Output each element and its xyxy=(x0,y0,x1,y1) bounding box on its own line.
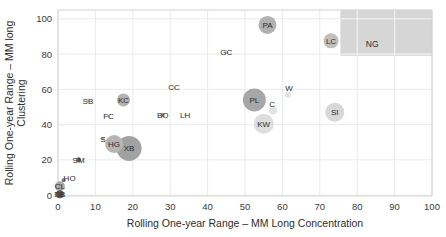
shaded-region: NG xyxy=(340,10,432,56)
bubbles xyxy=(55,16,344,198)
point-label-BO: BO xyxy=(157,111,169,120)
region-label-NG: NG xyxy=(366,39,379,49)
x-axis-title: Rolling One-year Range – MM Long Concent… xyxy=(127,217,364,229)
point-labels: PALCGCCCWSBKCFCBOLHPLCKWSISHGXBSMHOCLDB xyxy=(54,21,338,199)
y-tick-80: 80 xyxy=(41,49,52,60)
x-tick-50: 50 xyxy=(240,201,251,212)
point-label-PA: PA xyxy=(262,21,273,30)
y-tick-40: 40 xyxy=(41,119,52,130)
y-tick-60: 60 xyxy=(41,84,52,95)
shaded-region-rect xyxy=(340,10,432,56)
point-label-GC: GC xyxy=(220,48,232,57)
y-tick-20: 20 xyxy=(41,154,52,165)
x-tick-30: 30 xyxy=(165,201,176,212)
point-label-S: S xyxy=(100,135,105,144)
x-axis-ticks: 0102030405060708090100 xyxy=(55,201,440,212)
x-tick-20: 20 xyxy=(128,201,139,212)
point-label-SB: SB xyxy=(83,97,94,106)
point-label-SI: SI xyxy=(331,108,339,117)
point-label-DB: DB xyxy=(54,190,65,199)
y-axis-ticks: 020406080100 xyxy=(36,13,52,200)
y-axis-title-line2: Clustering xyxy=(15,79,27,126)
point-label-W: W xyxy=(285,84,293,93)
point-label-HO: HO xyxy=(64,174,76,183)
x-tick-60: 60 xyxy=(277,201,288,212)
y-tick-100: 100 xyxy=(36,13,52,24)
x-tick-40: 40 xyxy=(202,201,213,212)
point-label-CC: CC xyxy=(168,83,180,92)
point-label-KW: KW xyxy=(257,120,270,129)
y-tick-0: 0 xyxy=(47,190,52,201)
point-label-LH: LH xyxy=(180,111,190,120)
x-tick-0: 0 xyxy=(55,201,60,212)
point-label-C: C xyxy=(269,100,275,109)
point-label-FC: FC xyxy=(103,112,114,121)
x-tick-80: 80 xyxy=(352,201,363,212)
x-tick-70: 70 xyxy=(315,201,326,212)
x-tick-90: 90 xyxy=(389,201,400,212)
x-tick-100: 100 xyxy=(424,201,440,212)
point-label-XB: XB xyxy=(124,144,135,153)
scatter-plot-canvas: NG PALCGCCCWSBKCFCBOLHPLCKWSISHGXBSMHOCL… xyxy=(0,0,446,237)
bubble-scatter-chart: NG PALCGCCCWSBKCFCBOLHPLCKWSISHGXBSMHOCL… xyxy=(0,0,446,237)
y-axis-title-line1: Rolling One-year Range – MM long xyxy=(3,21,15,186)
x-tick-10: 10 xyxy=(90,201,101,212)
point-label-HG: HG xyxy=(108,140,120,149)
point-label-KC: KC xyxy=(118,96,129,105)
point-label-PL: PL xyxy=(249,96,259,105)
point-label-SM: SM xyxy=(73,156,85,165)
point-label-LC: LC xyxy=(326,37,336,46)
